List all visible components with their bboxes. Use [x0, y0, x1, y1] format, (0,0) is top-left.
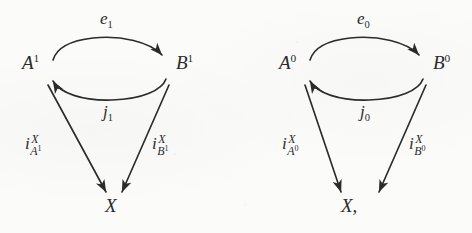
node-X-right: X, [341, 196, 357, 215]
diagram-page: A1 B1 X e1 j1 iXA1 iXB1 A0 B0 X, e0 j0 i… [0, 0, 472, 233]
arrow-j0-bottom [310, 79, 423, 100]
node-X-left: X [105, 196, 117, 215]
edge-label-j0: j0 [360, 103, 370, 120]
arrows-layer [0, 0, 472, 233]
arrow-e1-top [53, 37, 162, 60]
arrow-iXA0-diagonal [305, 85, 341, 192]
node-B0: B0 [433, 53, 450, 72]
node-A0: A0 [279, 53, 296, 72]
edge-label-iXA1: iXA1 [25, 133, 42, 158]
edge-label-iXB0: iXB0 [409, 133, 426, 158]
arrow-iXA1-diagonal [48, 85, 106, 192]
arrow-j1-bottom [53, 79, 166, 100]
arrow-e0-top [310, 37, 419, 60]
edge-label-e0: e0 [357, 10, 370, 27]
node-A1: A1 [22, 53, 39, 72]
edge-label-iXB1: iXB1 [152, 133, 169, 158]
node-B1: B1 [176, 53, 193, 72]
edge-label-iXA0: iXA0 [282, 133, 299, 158]
edge-label-j1: j1 [103, 103, 113, 120]
edge-label-e1: e1 [100, 10, 113, 27]
